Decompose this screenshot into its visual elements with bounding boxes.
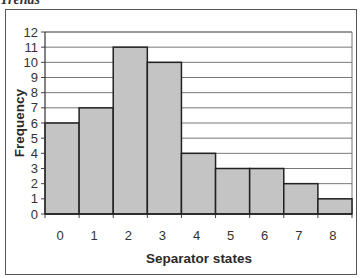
y-tick-label: 9 xyxy=(31,70,38,85)
y-tick-label: 7 xyxy=(31,100,38,115)
y-tick-label: 12 xyxy=(24,25,38,40)
bar-7 xyxy=(284,184,318,214)
histogram-chart: 0123456789101112 012345678 Frequency Sep… xyxy=(0,0,363,278)
bars xyxy=(45,47,352,214)
bar-1 xyxy=(79,108,113,214)
bar-4 xyxy=(181,153,215,214)
x-tick-label: 2 xyxy=(125,228,132,243)
y-tick-label: 4 xyxy=(31,146,38,161)
bar-0 xyxy=(45,123,79,214)
x-tick-label: 4 xyxy=(193,228,200,243)
y-tick-label: 3 xyxy=(31,161,38,176)
bar-5 xyxy=(216,169,250,215)
y-tick-label: 2 xyxy=(31,176,38,191)
x-tick-label: 7 xyxy=(295,228,302,243)
y-tick-label: 0 xyxy=(31,207,38,222)
bar-6 xyxy=(250,169,284,215)
x-tick-label: 1 xyxy=(91,228,98,243)
y-tick-label: 1 xyxy=(31,191,38,206)
x-tick-label: 3 xyxy=(159,228,166,243)
y-tick-label: 10 xyxy=(24,55,38,70)
bar-3 xyxy=(147,62,181,214)
bar-8 xyxy=(318,199,352,214)
y-tick-label: 6 xyxy=(31,116,38,131)
y-tick-label: 8 xyxy=(31,85,38,100)
bar-2 xyxy=(113,47,147,214)
y-axis-title: Frequency xyxy=(12,88,27,157)
x-tick-label: 6 xyxy=(261,228,268,243)
x-tick-label: 0 xyxy=(56,228,63,243)
y-tick-label: 11 xyxy=(25,40,39,55)
x-tick-label: 8 xyxy=(329,228,336,243)
x-tick-labels: 012345678 xyxy=(56,228,336,243)
y-tick-label: 5 xyxy=(31,131,38,146)
x-axis-title: Separator states xyxy=(146,251,252,266)
x-tick-label: 5 xyxy=(227,228,234,243)
